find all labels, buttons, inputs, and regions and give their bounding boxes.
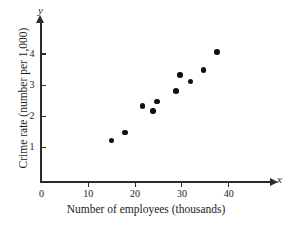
x-axis-tick-label: 0 [27, 189, 57, 199]
data-point [188, 79, 193, 84]
y-axis-line [40, 22, 42, 182]
y-axis-tick [42, 85, 47, 86]
data-point [109, 138, 114, 143]
data-point [214, 49, 219, 54]
x-axis-tick-label: 20 [120, 189, 150, 199]
scatter-plot-figure: y x 1234 010203040 Number of employees (… [0, 0, 292, 226]
y-axis-tick [42, 53, 47, 54]
x-axis-tick [135, 183, 136, 188]
y-axis-title: Crime rate (number per 1,000) [17, 13, 29, 183]
y-axis-variable-label: y [38, 5, 43, 16]
x-axis-tick [181, 183, 182, 188]
data-point [154, 99, 159, 104]
x-axis-variable-label: x [277, 174, 282, 185]
x-axis-title: Number of employees (thousands) [0, 203, 292, 215]
y-axis-tick [42, 147, 47, 148]
data-point [173, 88, 178, 93]
data-point [177, 72, 182, 77]
plot-area: y x 1234 010203040 Number of employees (… [0, 0, 292, 226]
data-point [150, 108, 155, 113]
x-axis-tick-label: 10 [73, 189, 103, 199]
x-axis-tick [228, 183, 229, 188]
data-point [122, 130, 127, 135]
y-axis-tick [42, 116, 47, 117]
x-axis-line [40, 181, 272, 183]
x-axis-tick [88, 183, 89, 188]
data-point [140, 103, 145, 108]
x-axis-tick-label: 30 [167, 189, 197, 199]
data-point [201, 67, 206, 72]
y-axis-arrowhead-icon [36, 15, 44, 23]
x-axis-tick-label: 40 [214, 189, 244, 199]
